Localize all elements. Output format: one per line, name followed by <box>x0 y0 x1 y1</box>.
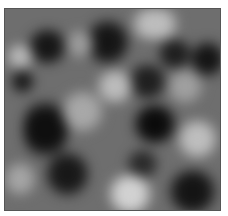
noise-blob <box>105 174 155 211</box>
noise-blob <box>60 89 105 134</box>
noise-blob <box>10 69 35 94</box>
noise-blob <box>130 104 180 144</box>
noise-blob <box>5 44 35 69</box>
noise-blob <box>5 159 35 199</box>
noise-blob <box>165 69 205 104</box>
noise-blob <box>125 9 185 39</box>
noise-blob-layer <box>5 9 220 210</box>
noise-blob <box>65 29 95 59</box>
noise-texture-image <box>4 8 221 211</box>
noise-blob <box>165 169 220 211</box>
noise-blob <box>175 119 220 159</box>
noise-blob <box>45 149 90 199</box>
noise-blob <box>155 39 195 69</box>
